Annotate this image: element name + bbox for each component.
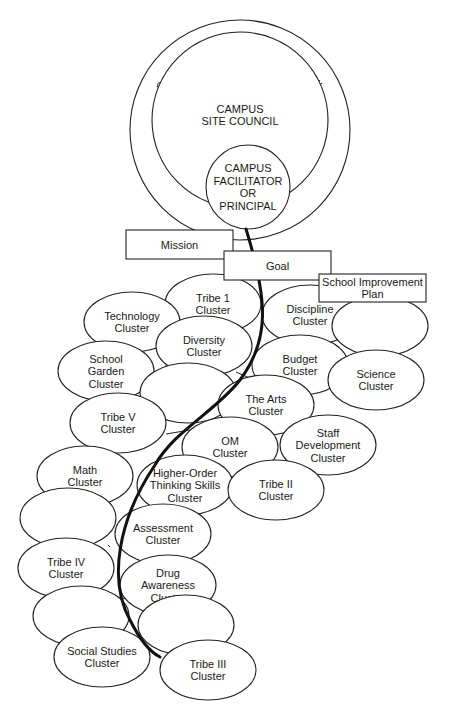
- clusters-group: Tribe 1ClusterTechnologyClusterDiversity…: [18, 274, 428, 700]
- cluster-the-arts-label: Cluster: [249, 405, 284, 417]
- cluster-tribe-ii: Tribe IICluster: [228, 460, 324, 520]
- cluster-staff-development-label: Staff: [317, 427, 340, 439]
- cluster-technology-label: Technology: [104, 310, 160, 322]
- cluster-staff-development-label: Development: [296, 439, 361, 451]
- campus-organization-diagram: CAMPUS PERFORMANCE COUNCILCAMPUSSITE COU…: [0, 0, 475, 716]
- cluster-om-label: Cluster: [213, 447, 248, 459]
- cluster-math-label: Math: [73, 464, 97, 476]
- campus-facilitator-label: PRINCIPAL: [219, 200, 276, 212]
- mission-label: Mission: [161, 239, 198, 251]
- goal-label: Goal: [266, 260, 289, 272]
- cluster-tribe-1-label: Tribe 1: [196, 292, 230, 304]
- cluster-tribe-iii-label: Cluster: [191, 670, 226, 682]
- cluster-science-label: Science: [356, 368, 395, 380]
- cluster-ellipse: [332, 296, 428, 356]
- councils-group: CAMPUS PERFORMANCE COUNCILCAMPUSSITE COU…: [130, 20, 350, 240]
- cluster-technology-label: Cluster: [115, 322, 150, 334]
- cluster-school-garden-label: School: [89, 353, 123, 365]
- cluster-diversity-label: Diversity: [183, 334, 226, 346]
- cluster-tribe-iii-label: Tribe III: [190, 658, 227, 670]
- cluster-tribe-v-label: Tribe V: [100, 411, 136, 423]
- campus-site-council-label: CAMPUS: [216, 103, 263, 115]
- cluster-drug-awareness-label: Awareness: [141, 579, 196, 591]
- cluster-discipline-label: Discipline: [286, 303, 333, 315]
- cluster-tribe-v: Tribe VCluster: [70, 393, 166, 453]
- cluster-blank-right-1: [332, 296, 428, 356]
- cluster-science: ScienceCluster: [328, 350, 424, 410]
- campus-facilitator-label: CAMPUS: [224, 162, 271, 174]
- cluster-budget-label: Budget: [283, 353, 318, 365]
- cluster-tribe-ii-label: Tribe II: [259, 478, 293, 490]
- cluster-social-studies-label: Social Studies: [67, 645, 137, 657]
- cluster-school-garden-label: Garden: [88, 365, 125, 377]
- cluster-om-label: OM: [221, 435, 239, 447]
- goal-box: Goal: [224, 251, 331, 280]
- campus-facilitator-label: OR: [240, 187, 257, 199]
- campus-facilitator-label: FACILITATOR: [213, 175, 282, 187]
- mission-box: Mission: [126, 230, 233, 259]
- cluster-higher-order-thinking-skills-label: Cluster: [168, 492, 203, 504]
- cluster-tribe-v-label: Cluster: [101, 423, 136, 435]
- cluster-assessment-label: Assessment: [133, 522, 193, 534]
- school-improvement-plan-box: School ImprovementPlan: [319, 274, 426, 302]
- cluster-staff-development-label: Cluster: [311, 452, 346, 464]
- cluster-assessment-label: Cluster: [146, 534, 181, 546]
- school-improvement-plan-label: Plan: [361, 288, 383, 300]
- cluster-the-arts-label: The Arts: [246, 393, 287, 405]
- cluster-tribe-ii-label: Cluster: [259, 490, 294, 502]
- cluster-diversity-label: Cluster: [187, 346, 222, 358]
- cluster-drug-awareness-label: Drug: [156, 567, 180, 579]
- cluster-social-studies-label: Cluster: [85, 657, 120, 669]
- cluster-tribe-iii: Tribe IIICluster: [160, 640, 256, 700]
- connector-line: [108, 545, 110, 547]
- cluster-tribe-iv-label: Tribe IV: [47, 556, 86, 568]
- cluster-tribe-1-label: Cluster: [196, 304, 231, 316]
- cluster-higher-order-thinking-skills-label: Higher-Order: [153, 467, 218, 479]
- school-improvement-plan-label: School Improvement: [322, 276, 423, 288]
- cluster-budget-label: Cluster: [283, 365, 318, 377]
- cluster-discipline-label: Cluster: [293, 315, 328, 327]
- campus-site-council-label: SITE COUNCIL: [201, 115, 278, 127]
- cluster-social-studies: Social StudiesCluster: [54, 627, 150, 687]
- cluster-tribe-iv-label: Cluster: [49, 568, 84, 580]
- cluster-school-garden-label: Cluster: [89, 378, 124, 390]
- cluster-higher-order-thinking-skills-label: Thinking Skills: [150, 479, 221, 491]
- cluster-math-label: Cluster: [68, 476, 103, 488]
- cluster-science-label: Cluster: [359, 380, 394, 392]
